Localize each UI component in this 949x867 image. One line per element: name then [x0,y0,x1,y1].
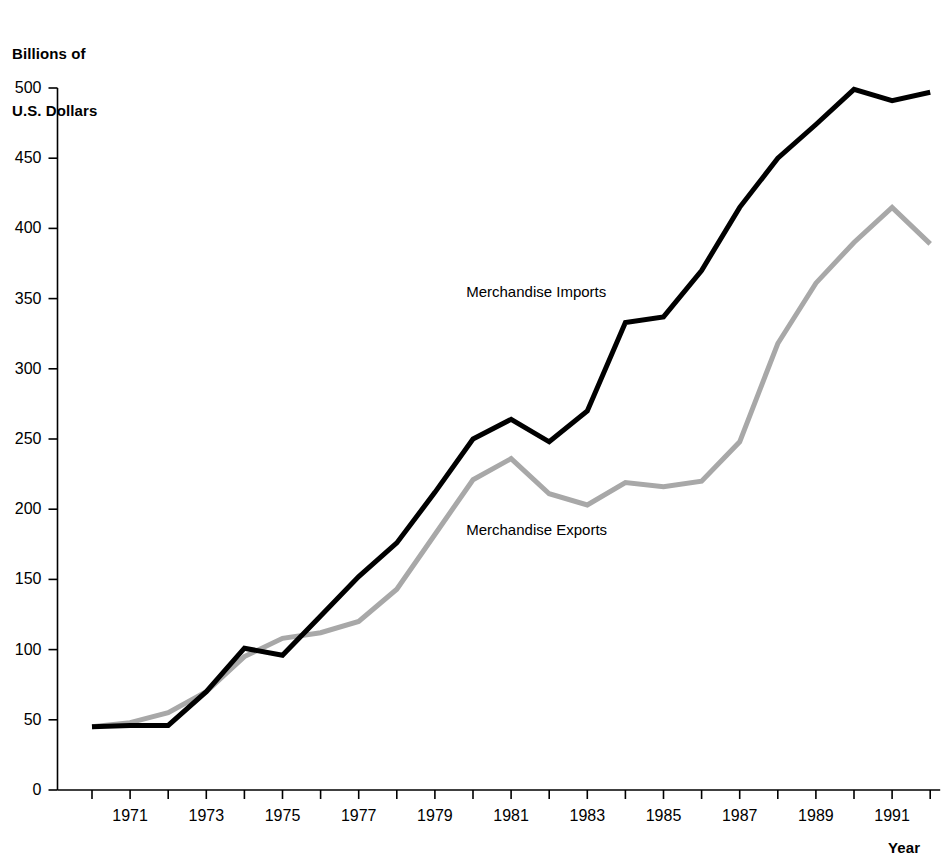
series-line-merchandise-imports [92,89,930,726]
axis-frame [58,88,941,790]
tick-marks [49,88,931,799]
series-lines [92,89,930,726]
line-chart: Billions of U.S. Dollars Year 0501001502… [0,0,949,867]
plot-area [0,0,949,867]
series-line-merchandise-exports [92,207,930,726]
